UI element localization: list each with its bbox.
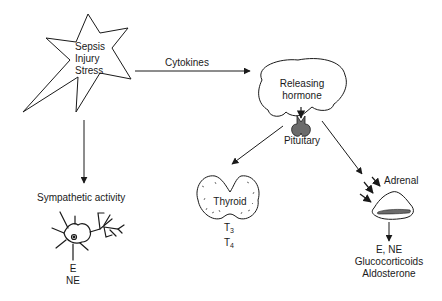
output-t4: T4 [216, 237, 242, 252]
sympathetic-activity-label: Sympathetic activity [37, 192, 125, 204]
cytokines-label: Cytokines [165, 57, 209, 69]
pituitary-shape [292, 116, 311, 136]
stressor-injury: Injury [75, 53, 105, 65]
thyroid-label: Thyroid [204, 196, 256, 208]
hypothalamus-label: Releasing hormone [274, 78, 330, 102]
thyroid-outputs: T3 T4 [216, 222, 242, 252]
output-e: E [60, 263, 86, 275]
stressor-label: Sepsis Injury Stress [75, 41, 105, 77]
output-ne: NE [60, 275, 86, 287]
stressor-stress: Stress [75, 65, 105, 77]
pituitary-label: Pituitary [282, 135, 322, 147]
output-aldosterone: Aldosterone [349, 268, 429, 280]
adrenal-icon [372, 192, 413, 220]
pituitary-to-thyroid-arrow [232, 126, 283, 164]
adrenal-outputs: E, NE Glucocorticoids Aldosterone [349, 244, 429, 280]
output-e-ne: E, NE [349, 244, 429, 256]
neuron-icon [52, 212, 124, 260]
stressor-sepsis: Sepsis [75, 41, 105, 53]
hormone-text: hormone [274, 90, 330, 102]
pituitary-to-adrenal-arrow [322, 121, 362, 174]
output-t3: T3 [216, 222, 242, 237]
adrenal-label: Adrenal [384, 175, 418, 187]
sympathetic-outputs: E NE [60, 263, 86, 287]
adrenal-input-arrow-3 [360, 194, 371, 202]
adrenal-input-arrow-2 [364, 182, 373, 193]
output-glucocorticoids: Glucocorticoids [349, 256, 429, 268]
releasing-text: Releasing [274, 78, 330, 90]
adrenal-input-arrow-1 [372, 177, 380, 186]
